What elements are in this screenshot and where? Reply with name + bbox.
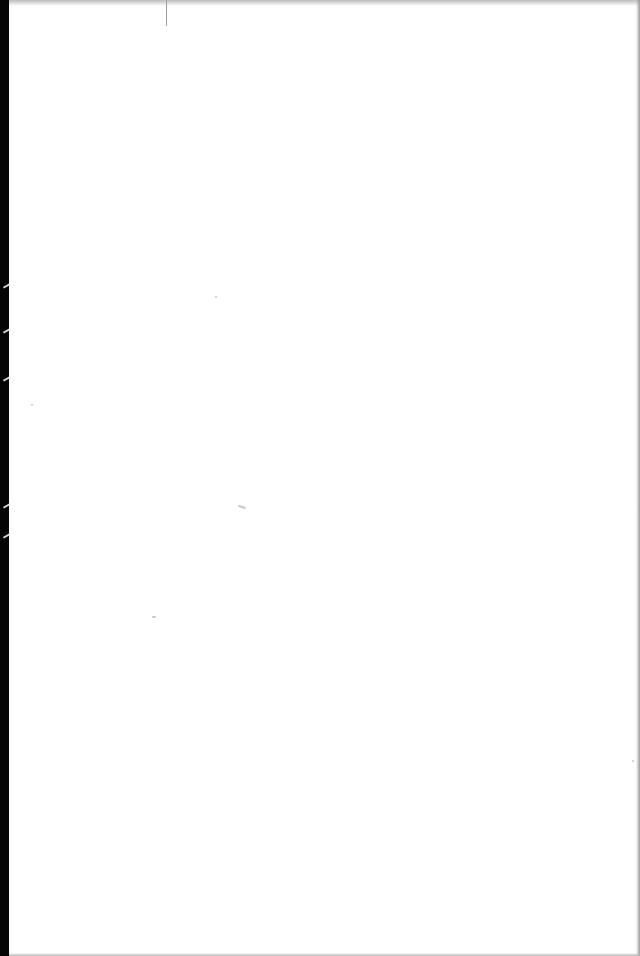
dust-speck: [632, 760, 634, 762]
dust-speck: [215, 296, 217, 298]
scanned-page: [0, 0, 640, 956]
scan-left-border: [0, 0, 9, 956]
page-body: [9, 6, 636, 953]
dust-speck: [152, 616, 156, 618]
scan-right-shadow: [636, 0, 640, 956]
dust-speck: [31, 404, 33, 406]
